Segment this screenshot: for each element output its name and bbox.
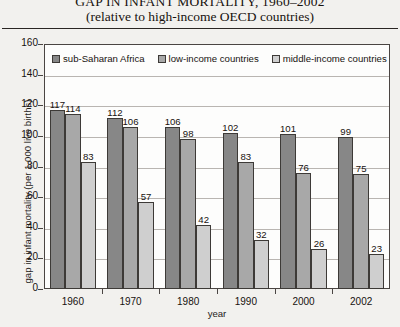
bar-value-label: 106 (122, 116, 138, 127)
bar-value-label: 75 (356, 163, 367, 174)
bar-value-label: 112 (107, 107, 122, 118)
y-tick-label: 0 (2, 282, 38, 293)
x-tick-label: 1980 (177, 296, 199, 307)
x-tick-mark (102, 289, 103, 294)
bar-group: 11210657 (107, 44, 154, 289)
legend-swatch-icon (52, 55, 60, 63)
bar[interactable]: 117 (50, 110, 66, 289)
bar[interactable]: 98 (180, 139, 196, 289)
bar-series-layer: 1171148311210657106984210283321017626997… (44, 44, 390, 289)
x-tick-mark (159, 289, 160, 294)
y-tick-label: 80 (2, 160, 38, 171)
x-tick-label: 1960 (62, 296, 84, 307)
x-tick-mark (275, 289, 276, 294)
bar[interactable]: 57 (138, 202, 154, 289)
bar-value-label: 57 (141, 191, 152, 202)
title-divider (2, 28, 398, 29)
page-subtitle: (relative to high-income OECD countries) (0, 9, 400, 25)
bar-value-label: 76 (298, 162, 309, 173)
x-tick-mark (332, 289, 333, 294)
legend-swatch-icon (272, 55, 280, 63)
page-title: GAP IN INFANT MORTALITY, 1960–2002 (0, 0, 400, 9)
y-tick-label: 160 (2, 37, 38, 48)
bar[interactable]: 106 (165, 127, 181, 289)
bar-group: 997523 (338, 44, 385, 289)
y-tick-mark (38, 105, 43, 106)
x-tick-mark (217, 289, 218, 294)
bar[interactable]: 76 (296, 173, 312, 289)
y-tick-label: 60 (2, 190, 38, 201)
bar[interactable]: 42 (196, 225, 212, 289)
bar-value-label: 42 (198, 214, 209, 225)
x-axis-label: year (44, 308, 390, 319)
y-tick-mark (38, 75, 43, 76)
x-tick-label: 2000 (292, 296, 314, 307)
bar-value-label: 83 (240, 151, 251, 162)
bar-group: 11711483 (50, 44, 97, 289)
y-tick-label: 140 (2, 68, 38, 79)
legend-item[interactable]: low-income countries (158, 53, 259, 64)
y-tick-label: 100 (2, 129, 38, 140)
bar-value-label: 26 (314, 238, 325, 249)
bar-value-label: 114 (65, 103, 80, 114)
bar-value-label: 106 (165, 116, 181, 127)
bar-value-label: 23 (371, 243, 382, 254)
y-tick-label: 40 (2, 221, 38, 232)
y-tick-mark (38, 167, 43, 168)
y-tick-label: 20 (2, 251, 38, 262)
bar[interactable]: 101 (280, 134, 296, 289)
bar[interactable]: 32 (254, 240, 270, 289)
bar-group: 1069842 (165, 44, 212, 289)
y-tick-mark (38, 258, 43, 259)
bar-group: 1028332 (223, 44, 270, 289)
y-tick-mark (38, 44, 43, 45)
bar[interactable]: 75 (353, 174, 369, 289)
bar[interactable]: 102 (223, 133, 239, 289)
chart-legend: sub-Saharan Africalow-income countriesmi… (52, 53, 387, 64)
bar-value-label: 102 (222, 122, 238, 133)
bar-value-label: 99 (340, 126, 351, 137)
y-tick-mark (38, 228, 43, 229)
bar[interactable]: 26 (311, 249, 327, 289)
legend-item[interactable]: middle-income countries (272, 53, 387, 64)
y-tick-mark (38, 289, 43, 290)
bar-value-label: 32 (256, 229, 267, 240)
bar-value-label: 117 (50, 99, 65, 110)
chart-title-block: GAP IN INFANT MORTALITY, 1960–2002 (rela… (0, 0, 400, 25)
x-tick-label: 1970 (119, 296, 141, 307)
bar-value-label: 101 (280, 123, 296, 134)
y-tick-mark (38, 136, 43, 137)
bar[interactable]: 114 (65, 114, 81, 289)
bar[interactable]: 83 (238, 162, 254, 289)
legend-swatch-icon (158, 55, 166, 63)
bar-value-label: 83 (83, 151, 94, 162)
bar[interactable]: 83 (81, 162, 97, 289)
bar[interactable]: 23 (369, 254, 385, 289)
legend-label: middle-income countries (283, 53, 387, 64)
bar[interactable]: 106 (123, 127, 139, 289)
legend-label: sub-Saharan Africa (63, 53, 145, 64)
bar[interactable]: 99 (338, 137, 354, 289)
y-tick-mark (38, 197, 43, 198)
y-tick-label: 120 (2, 98, 38, 109)
x-tick-label: 2002 (350, 296, 372, 307)
legend-item[interactable]: sub-Saharan Africa (52, 53, 145, 64)
bar-value-label: 98 (183, 128, 194, 139)
legend-label: low-income countries (169, 53, 259, 64)
y-axis-ticks: 020406080100120140160 (0, 44, 40, 289)
bar[interactable]: 112 (107, 118, 123, 290)
bar-group: 1017626 (280, 44, 327, 289)
x-tick-label: 1990 (235, 296, 257, 307)
